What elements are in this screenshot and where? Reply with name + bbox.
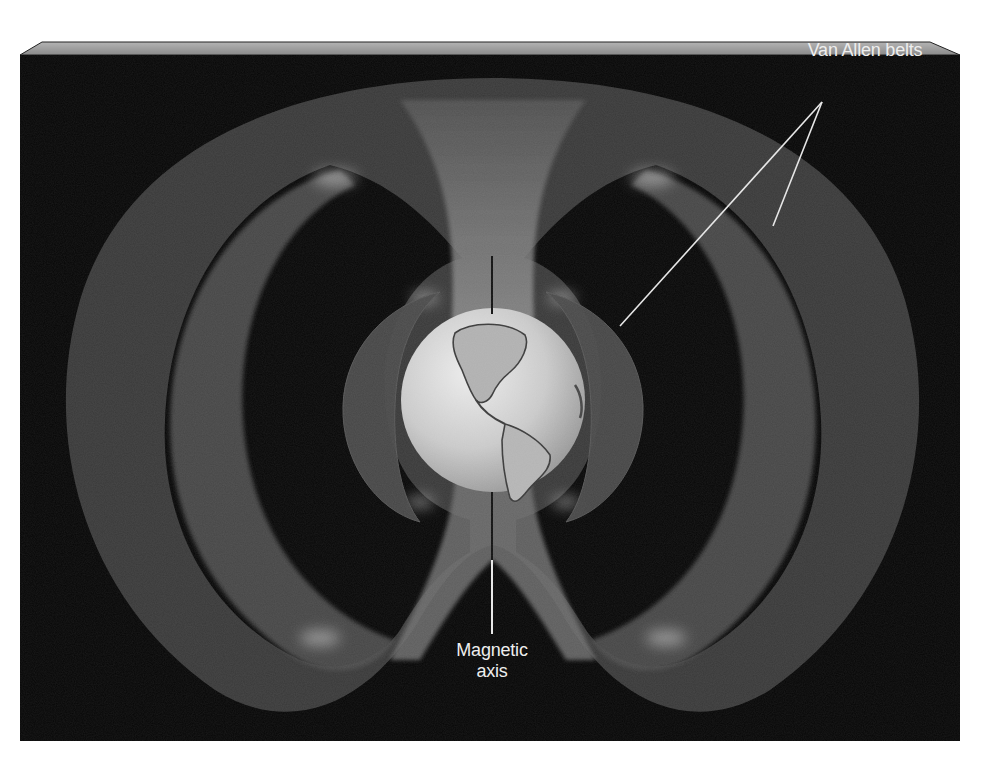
magnetic-axis-label-line1: Magnetic: [432, 640, 552, 661]
magnetic-axis-label-line2: axis: [432, 661, 552, 682]
magnetic-axis-label: Magnetic axis: [432, 640, 552, 682]
film-grain: [20, 55, 960, 741]
van-allen-belts-label: Van Allen belts: [780, 40, 950, 61]
